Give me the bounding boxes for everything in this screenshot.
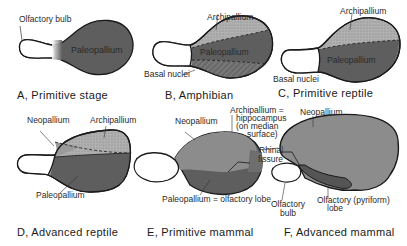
caption-c: C, Primitive reptile [278,87,373,99]
label-rhinal-e-2: fissure [258,155,283,164]
caption-e: E, Primitive mammal [147,226,254,238]
label-paleopallium-d: Paleopallium [36,191,85,200]
label-neopallium-d: Neopallium [27,116,70,125]
caption-d: D, Advanced reptile [17,226,118,238]
label-archipallium-b: Archipallium [207,13,253,22]
label-basal-nuclei-c: Basal nuclei [273,75,319,84]
label-olfactory-bulb-a: Olfactory bulb [19,15,71,24]
label-archipallium-e-4: surface) [247,130,278,139]
label-olfactory-bulb-f-2: bulb [270,209,306,218]
label-basal-nuclei-b: Basal nuclei [144,70,190,79]
caption-b: B, Amphibian [165,89,233,101]
label-paleopallium-a: Paleopallium [71,46,123,55]
label-paleopallium-b: Paleopallium [200,48,249,57]
label-archipallium-d: Archipallium [90,116,136,125]
label-olfactory-lobe-f-2: lobe [327,204,343,213]
label-neopallium-e: Neopallium [175,117,218,126]
caption-f: F, Advanced mammal [284,226,395,238]
caption-a: A, Primitive stage [17,89,108,101]
label-paleopallium-e: Paleopallium = olfactory lobe [162,195,271,204]
panel-f-hemisphere [272,114,399,200]
label-neopallium-f: Neopallium [300,108,343,117]
panel-c-hemisphere [281,14,400,82]
label-archipallium-c: Archipallium [340,7,386,16]
panel-d-hemisphere [18,126,131,193]
label-paleopallium-c: Paleopallium [327,56,376,65]
